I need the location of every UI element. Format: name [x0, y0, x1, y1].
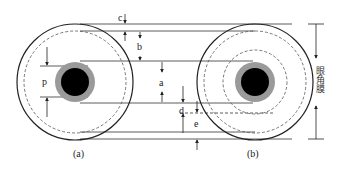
side-label-cornea: 眼角膜	[315, 66, 325, 94]
label-p: p	[42, 76, 47, 87]
pupil-a	[61, 68, 89, 96]
label-a: a	[159, 77, 164, 88]
label-d: d	[179, 105, 184, 116]
label-b: b	[137, 41, 142, 52]
label-e: e	[194, 118, 199, 129]
eye-dimension-diagram: c b a p d e (a) (b) 眼角膜	[0, 0, 340, 170]
caption-b: (b)	[247, 148, 259, 160]
caption-a: (a)	[73, 148, 84, 160]
eye-a	[17, 24, 133, 140]
eye-b	[197, 24, 313, 140]
pupil-b	[241, 68, 269, 96]
label-c-top: c	[118, 12, 123, 23]
